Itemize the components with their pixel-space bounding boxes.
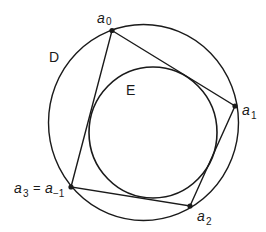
- vertex-a2-dot: [187, 203, 192, 208]
- svg-text:3: 3: [23, 188, 29, 199]
- label-a0: a 0: [97, 10, 112, 27]
- label-a3-equals-a-minus1: a 3 = a −1: [14, 180, 65, 199]
- label-e: E: [126, 82, 135, 98]
- inscribed-polygon: [71, 31, 235, 207]
- svg-text:1: 1: [251, 110, 257, 121]
- vertex-a0-dot: [109, 28, 114, 33]
- svg-text:=: =: [33, 180, 41, 195]
- svg-text:a: a: [14, 180, 22, 196]
- label-a2: a 2: [197, 208, 212, 227]
- outer-circle-d: [49, 25, 239, 221]
- label-d: D: [49, 49, 59, 65]
- svg-text:a: a: [197, 208, 205, 224]
- svg-text:−1: −1: [53, 188, 65, 199]
- svg-text:0: 0: [106, 16, 112, 27]
- svg-text:2: 2: [206, 216, 212, 227]
- vertex-a1-dot: [232, 103, 237, 108]
- label-a1: a 1: [242, 102, 257, 121]
- inner-circle-e: [89, 67, 217, 198]
- vertex-a3-dot: [68, 184, 73, 189]
- svg-text:a: a: [242, 102, 250, 118]
- svg-text:a: a: [97, 10, 105, 26]
- poncelet-diagram: D E a 0 a 1 a 2 a 3 = a −1: [0, 0, 266, 232]
- svg-text:a: a: [45, 180, 53, 196]
